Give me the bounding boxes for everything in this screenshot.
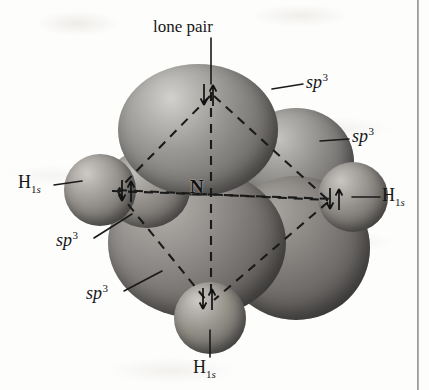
hydrogen-label-right: H1s <box>382 186 405 208</box>
annotation-layer: lone pair sp3 sp3 sp3 sp3 H1s H1s H1s N <box>0 0 429 390</box>
sp3-label-lower-left-lower: sp3 <box>86 283 108 302</box>
sp3-label-lower-left-upper-text: sp <box>56 230 72 250</box>
spin-down-arrow <box>200 84 208 106</box>
sp3-label-right-text: sp <box>352 126 368 146</box>
bottom-bond-electrons-arrows <box>199 288 216 310</box>
spin-up-arrow <box>127 180 135 202</box>
leader-sp3-lower-left-lower <box>124 271 162 291</box>
hydrogen-label-bottom-symbol: H <box>193 357 206 377</box>
lone-pair-electrons-arrows <box>200 84 217 106</box>
spin-up-arrow <box>209 84 217 106</box>
left-bond-electrons-arrows <box>118 180 135 202</box>
sp3-label-lower-left-upper-exponent: 3 <box>73 229 79 241</box>
sp3-label-lower-left-lower-exponent: 3 <box>103 282 109 294</box>
hydrogen-label-left-sub-orbital: s <box>37 183 41 195</box>
right-bond-electrons-arrows <box>326 188 343 210</box>
leader-lines <box>0 0 429 390</box>
sp3-label-upper-right-exponent: 3 <box>323 71 329 83</box>
hydrogen-label-right-symbol: H <box>382 185 395 205</box>
leader-sp3-right <box>320 139 349 141</box>
hydrogen-label-bottom: H1s <box>193 358 216 380</box>
hydrogen-label-bottom-sub-orbital: s <box>212 368 216 380</box>
spin-down-arrow <box>199 288 207 310</box>
sp3-label-lower-left-lower-text: sp <box>86 283 102 303</box>
hydrogen-label-left-symbol: H <box>18 172 31 192</box>
spin-down-arrow <box>326 188 334 210</box>
hydrogen-label-right-sub-orbital: s <box>401 196 405 208</box>
sp3-label-right-exponent: 3 <box>369 125 375 137</box>
nitrogen-atom-label: N <box>190 176 204 198</box>
spin-down-arrow <box>118 180 126 202</box>
sp3-label-upper-right: sp3 <box>306 72 328 91</box>
orbital-diagram-figure: lone pair sp3 sp3 sp3 sp3 H1s H1s H1s N <box>0 0 429 390</box>
leader-h-left <box>54 181 82 185</box>
sp3-label-lower-left-upper: sp3 <box>56 230 78 249</box>
lone-pair-label: lone pair <box>153 18 213 35</box>
sp3-label-upper-right-text: sp <box>306 72 322 92</box>
spin-up-arrow <box>208 288 216 310</box>
leader-sp3-lower-left-upper <box>94 214 132 238</box>
hydrogen-label-left: H1s <box>18 173 41 195</box>
sp3-label-right: sp3 <box>352 126 374 145</box>
spin-up-arrow <box>335 188 343 210</box>
leader-sp3-upper-right <box>272 84 303 89</box>
